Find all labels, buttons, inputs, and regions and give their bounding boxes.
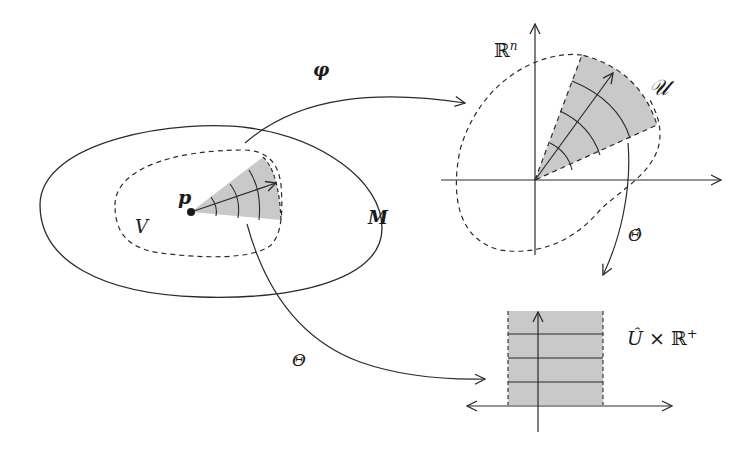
- label-rn: ℝn: [494, 40, 518, 60]
- label-neighborhood-v: V: [135, 218, 148, 236]
- label-theta: Θ: [292, 352, 306, 369]
- phi-map-arrow: [245, 97, 465, 143]
- label-product-space: Û × ℝ+: [627, 327, 698, 348]
- sector-u: [535, 55, 657, 180]
- sector-at-p: [191, 157, 281, 220]
- label-phi: φ: [313, 61, 329, 79]
- theta-map-arrow: [247, 224, 485, 379]
- label-rn-base: ℝ: [494, 39, 510, 61]
- label-plus: +: [687, 326, 698, 341]
- theta-hat-map-arrow: [603, 143, 629, 275]
- label-u-hat: Û: [627, 327, 643, 349]
- label-times: ×: [649, 327, 665, 349]
- label-rn-exponent: n: [510, 39, 518, 53]
- label-theta-hat: Θ̂: [628, 227, 642, 244]
- point-p-dot: [187, 208, 195, 216]
- label-point-p: p: [178, 188, 191, 207]
- label-r: ℝ: [671, 327, 687, 349]
- label-manifold-m: M: [368, 209, 388, 227]
- label-sector-u: 𝒰: [649, 77, 669, 99]
